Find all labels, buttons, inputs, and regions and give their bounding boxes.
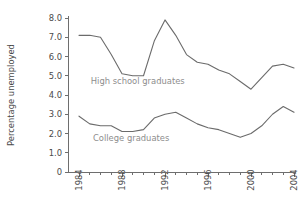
y-tick-label: 4.0	[49, 90, 62, 100]
x-tick-label: 2000	[246, 169, 256, 190]
y-axis-title-label: Percentage unemployed	[6, 44, 16, 146]
x-tick-label: 1996	[203, 169, 213, 190]
y-tick-label: 7.0	[49, 32, 62, 42]
series-label-1: College graduates	[93, 133, 169, 143]
y-tick-label: 2.0	[49, 129, 62, 139]
chart-canvas: Percentage unemployed 01.02.03.04.05.06.…	[0, 0, 300, 218]
y-tick-label: 6.0	[49, 52, 62, 62]
x-tick-label: 1988	[117, 169, 127, 190]
series-label-0: High school graduates	[91, 76, 185, 86]
series-inline-labels: High school graduatesCollege graduates	[91, 76, 185, 142]
y-axis-ticks: 01.02.03.04.05.06.07.08.0	[49, 13, 68, 177]
x-axis-ticks: 198419881992199620002004	[74, 169, 299, 190]
unemployment-line-chart: Percentage unemployed 01.02.03.04.05.06.…	[0, 0, 300, 218]
x-tick-label: 1992	[160, 169, 170, 190]
x-tick-label: 1984	[74, 169, 84, 190]
y-tick-label: 0	[57, 167, 62, 177]
y-tick-label: 3.0	[49, 109, 62, 119]
y-tick-label: 1.0	[49, 148, 62, 158]
x-tick-label: 2004	[289, 169, 299, 190]
y-axis-title: Percentage unemployed	[6, 44, 16, 146]
y-tick-label: 5.0	[49, 71, 62, 81]
y-tick-label: 8.0	[49, 13, 62, 23]
